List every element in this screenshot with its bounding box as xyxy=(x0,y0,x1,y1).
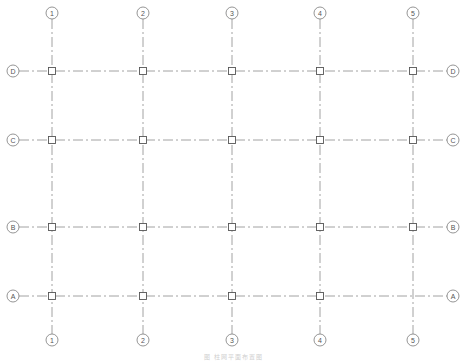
grid-label-3: 3 xyxy=(230,337,234,344)
column-5C xyxy=(410,137,417,144)
column-4D xyxy=(317,68,324,75)
column-1C xyxy=(49,137,56,144)
column-5B xyxy=(410,224,417,231)
column-5D xyxy=(410,68,417,75)
column-3D xyxy=(229,68,236,75)
grid-label-2: 2 xyxy=(141,337,145,344)
grid-label-5: 5 xyxy=(411,337,415,344)
figure-caption: 图 柱网平面布置图 xyxy=(0,352,467,361)
grid-label-3: 3 xyxy=(230,10,234,17)
grid-label-A: A xyxy=(11,293,16,300)
column-2B xyxy=(140,224,147,231)
column-4C xyxy=(317,137,324,144)
column-1B xyxy=(49,224,56,231)
grid-label-B: B xyxy=(11,224,16,231)
grid-label-D: D xyxy=(10,68,15,75)
grid-label-B: B xyxy=(451,224,456,231)
column-4B xyxy=(317,224,324,231)
column-3B xyxy=(229,224,236,231)
column-2D xyxy=(140,68,147,75)
column-2A xyxy=(140,293,147,300)
column-3C xyxy=(229,137,236,144)
grid-label-A: A xyxy=(451,293,456,300)
column-1A xyxy=(49,293,56,300)
grid-label-4: 4 xyxy=(318,337,322,344)
grid-label-C: C xyxy=(10,137,15,144)
column-3A xyxy=(229,293,236,300)
grid-plan-drawing: 1122334455DDCCBBAA xyxy=(0,0,467,362)
column-1D xyxy=(49,68,56,75)
grid-label-2: 2 xyxy=(141,10,145,17)
grid-plan-canvas: 1122334455DDCCBBAA 图 柱网平面布置图 xyxy=(0,0,467,362)
grid-label-C: C xyxy=(450,137,455,144)
grid-label-1: 1 xyxy=(50,337,54,344)
grid-label-1: 1 xyxy=(50,10,54,17)
grid-label-D: D xyxy=(450,68,455,75)
grid-label-4: 4 xyxy=(318,10,322,17)
column-2C xyxy=(140,137,147,144)
grid-label-5: 5 xyxy=(411,10,415,17)
column-4A xyxy=(317,293,324,300)
